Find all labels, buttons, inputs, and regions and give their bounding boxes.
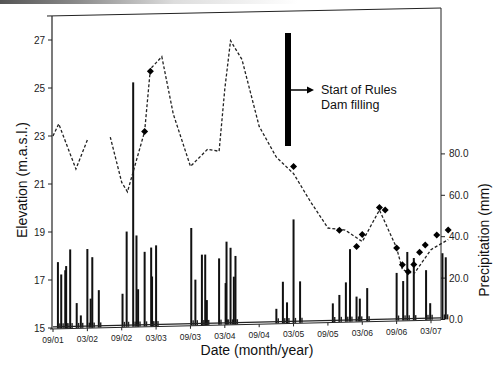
precipitation-bar xyxy=(218,258,220,324)
precipitation-bar xyxy=(194,280,196,326)
x-tick-label: 03/06 xyxy=(352,328,374,338)
diamond-marker-icon xyxy=(359,231,366,238)
precipitation-bar xyxy=(144,252,146,327)
y-right-tick-label: 80.0 xyxy=(449,148,469,159)
precipitation-bar xyxy=(132,82,134,326)
y-left-tick-label: 27 xyxy=(34,35,46,46)
x-tick-label: 03/05 xyxy=(283,329,305,339)
y-left-tick-label: 23 xyxy=(34,131,46,142)
precipitation-bar xyxy=(345,282,347,321)
x-tick-label: 09/06 xyxy=(386,327,408,337)
annotation-line1: Start of Rules xyxy=(321,83,397,97)
x-tick-label: 09/05 xyxy=(317,329,339,339)
y-left-axis-title: Elevation (m.a.s.l.) xyxy=(14,122,30,238)
precipitation-bar xyxy=(286,302,288,323)
precipitation-bar xyxy=(226,242,228,325)
precipitation-bar xyxy=(230,248,232,325)
precipitation-bar xyxy=(359,299,361,322)
y-left-tick-label: 19 xyxy=(34,227,46,238)
precipitation-bar xyxy=(122,294,124,327)
annotation-line2: Dam filling xyxy=(321,98,379,112)
elevation-line xyxy=(53,41,448,274)
precipitation-bar xyxy=(151,277,153,327)
diamond-marker-icon xyxy=(433,232,440,239)
x-tick-label: 03/07 xyxy=(420,326,442,336)
x-tick-label: 09/03 xyxy=(180,332,202,342)
precipitation-bar xyxy=(76,303,78,328)
precipitation-bar xyxy=(441,253,443,319)
x-tick-label: 09/02 xyxy=(111,333,133,343)
y-right-tick-label: 0.0 xyxy=(449,314,463,325)
precipitation-bars xyxy=(53,82,448,328)
diamond-marker-icon xyxy=(410,261,417,268)
precipitation-bar xyxy=(190,228,192,325)
y-left-tick-label: 25 xyxy=(34,83,46,94)
precipitation-bar xyxy=(60,274,62,328)
y-left-tick-label: 17 xyxy=(34,275,46,286)
y-right-tick-label: 60.0 xyxy=(449,190,469,201)
precipitation-bar xyxy=(137,289,139,326)
precipitation-bar xyxy=(91,257,93,327)
x-tick-label: 03/03 xyxy=(145,333,167,343)
precipitation-bar xyxy=(366,288,368,321)
diamond-marker-icon xyxy=(422,241,429,248)
precipitation-bar xyxy=(406,252,408,320)
elevation-markers xyxy=(141,68,452,275)
precipitation-bar xyxy=(429,303,431,320)
precipitation-bar xyxy=(234,256,236,324)
precipitation-bar xyxy=(293,219,295,323)
x-tick-label: 03/04 xyxy=(214,331,236,341)
diamond-marker-icon xyxy=(393,245,400,252)
diamond-marker-icon xyxy=(141,128,148,135)
plot-frame xyxy=(47,8,441,329)
diamond-marker-icon xyxy=(147,68,154,75)
diamond-marker-icon xyxy=(416,249,423,256)
precipitation-bar xyxy=(69,249,71,328)
precipitation-bar xyxy=(402,281,404,320)
y-left-tick-label: 15 xyxy=(34,323,46,334)
precipitation-bar xyxy=(126,232,128,327)
x-tick-label: 09/01 xyxy=(42,335,64,345)
precipitation-bar xyxy=(86,249,88,328)
diamond-marker-icon xyxy=(353,243,360,250)
arrow-head-icon xyxy=(307,87,314,94)
precipitation-bar xyxy=(299,281,301,322)
precipitation-bar xyxy=(201,255,203,325)
precipitation-bar xyxy=(356,297,358,322)
x-axis-title: Date (month/year) xyxy=(201,342,314,358)
x-tick-label: 03/02 xyxy=(77,334,99,344)
precipitation-bar xyxy=(338,295,340,322)
precipitation-bar xyxy=(57,262,59,328)
elevation-precipitation-chart: 15171921232527 0.020.040.060.080.0 09/01… xyxy=(0,0,497,371)
dam-filling-annotation: Start of Rules Dam filling xyxy=(285,33,397,146)
precipitation-bar xyxy=(282,282,284,323)
y-left-axis: 15171921232527 xyxy=(34,35,52,334)
precipitation-bar xyxy=(98,290,100,327)
precipitation-bar xyxy=(332,303,334,322)
y-left-tick-label: 21 xyxy=(34,179,46,190)
y-right-tick-label: 40.0 xyxy=(449,231,469,242)
precipitation-bar xyxy=(425,270,427,320)
precipitation-bar xyxy=(445,257,447,319)
y-right-tick-label: 20.0 xyxy=(449,273,469,284)
y-right-axis-title: Precipitation (mm) xyxy=(476,183,492,297)
dam-filling-bar xyxy=(285,33,291,146)
precipitation-bar xyxy=(206,300,208,325)
precipitation-bar xyxy=(65,266,67,328)
precipitation-bar xyxy=(155,245,157,326)
diamond-marker-icon xyxy=(336,227,343,234)
x-tick-label: 09/04 xyxy=(249,330,271,340)
diamond-marker-icon xyxy=(290,163,297,170)
precipitation-bar xyxy=(349,249,351,321)
diamond-marker-icon xyxy=(405,268,412,275)
precipitation-bar xyxy=(396,273,398,321)
